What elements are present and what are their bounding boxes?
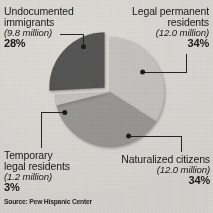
callout-naturalized-citizens: Naturalized citizens (12.0 million) 34% bbox=[102, 154, 210, 187]
callout-naturalized-percent: 34% bbox=[102, 175, 210, 187]
leader-dot-naturalized bbox=[126, 134, 131, 139]
callout-undocumented-percent: 28% bbox=[4, 38, 108, 50]
leader-dot-temporary bbox=[62, 110, 67, 115]
pie-chart-figure: Undocumented immigrants (9.8 million) 28… bbox=[0, 0, 213, 213]
source-note: Source: Pew Hispanic Center bbox=[4, 197, 92, 206]
leader-line-temporary bbox=[42, 113, 65, 149]
callout-legal-permanent-percent: 34% bbox=[104, 38, 209, 50]
callout-undocumented-immigrants: Undocumented immigrants (9.8 million) 28… bbox=[4, 6, 108, 50]
leader-dot-legal-permanent bbox=[140, 70, 145, 75]
callout-temporary-percent: 3% bbox=[4, 182, 108, 194]
callout-legal-permanent-residents: Legal permanent residents (12.0 million)… bbox=[104, 6, 209, 50]
callout-temporary-legal-residents: Temporary legal residents (1.2 million) … bbox=[4, 150, 108, 194]
